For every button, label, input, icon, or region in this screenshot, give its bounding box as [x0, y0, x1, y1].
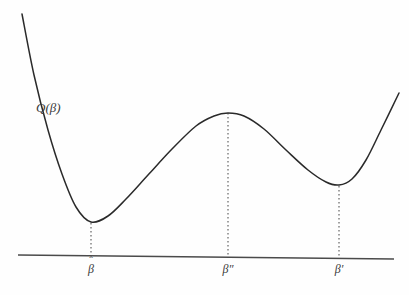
- plot-canvas: [0, 0, 409, 295]
- double-prime-accent-icon: ″: [228, 262, 233, 276]
- tick-label-beta-prime: β′: [335, 262, 344, 277]
- objective-function-figure: Q(β) β ˆ β″ β′: [0, 0, 409, 295]
- curve-label-text: Q(β): [36, 100, 61, 115]
- guide-lines-group: [91, 113, 339, 259]
- tick-label-beta-double-prime: β″: [223, 262, 234, 277]
- prime-accent-icon: ′: [341, 262, 344, 276]
- hat-accent-icon: ˆ: [89, 255, 93, 266]
- objective-curve: [22, 14, 399, 222]
- tick-label-beta-hat: β ˆ: [88, 262, 94, 277]
- beta-hat-glyph: β ˆ: [88, 262, 94, 277]
- curve-label-q-beta: Q(β): [36, 100, 61, 116]
- horizontal-axis: [18, 255, 394, 259]
